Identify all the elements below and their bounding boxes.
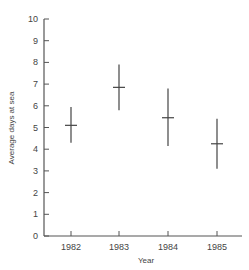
x-axis-title: Year [138, 256, 155, 265]
y-axis-ticks: 012345678910 [28, 14, 49, 241]
y-tick-label: 0 [33, 231, 38, 241]
x-tick-label: 1983 [109, 242, 129, 252]
y-tick-label: 5 [33, 123, 38, 133]
error-bar-chart: 012345678910 1982198319841985 Year Avera… [0, 0, 249, 270]
x-tick-label: 1985 [207, 242, 227, 252]
y-tick-label: 9 [33, 36, 38, 46]
error-bars [65, 65, 223, 169]
y-tick-label: 7 [33, 79, 38, 89]
y-tick-label: 6 [33, 101, 38, 111]
error-bar-1984 [162, 88, 174, 146]
x-axis-ticks: 1982198319841985 [61, 231, 227, 252]
y-tick-label: 4 [33, 144, 38, 154]
y-tick-label: 2 [33, 188, 38, 198]
y-tick-label: 8 [33, 57, 38, 67]
error-bar-1982 [65, 107, 77, 143]
error-bar-1983 [113, 65, 125, 111]
y-axis-title: Average days at sea [7, 91, 16, 164]
x-tick-label: 1982 [61, 242, 81, 252]
error-bar-1985 [211, 119, 223, 169]
y-tick-label: 1 [33, 209, 38, 219]
x-tick-label: 1984 [158, 242, 178, 252]
y-tick-label: 3 [33, 166, 38, 176]
y-tick-label: 10 [28, 14, 38, 24]
